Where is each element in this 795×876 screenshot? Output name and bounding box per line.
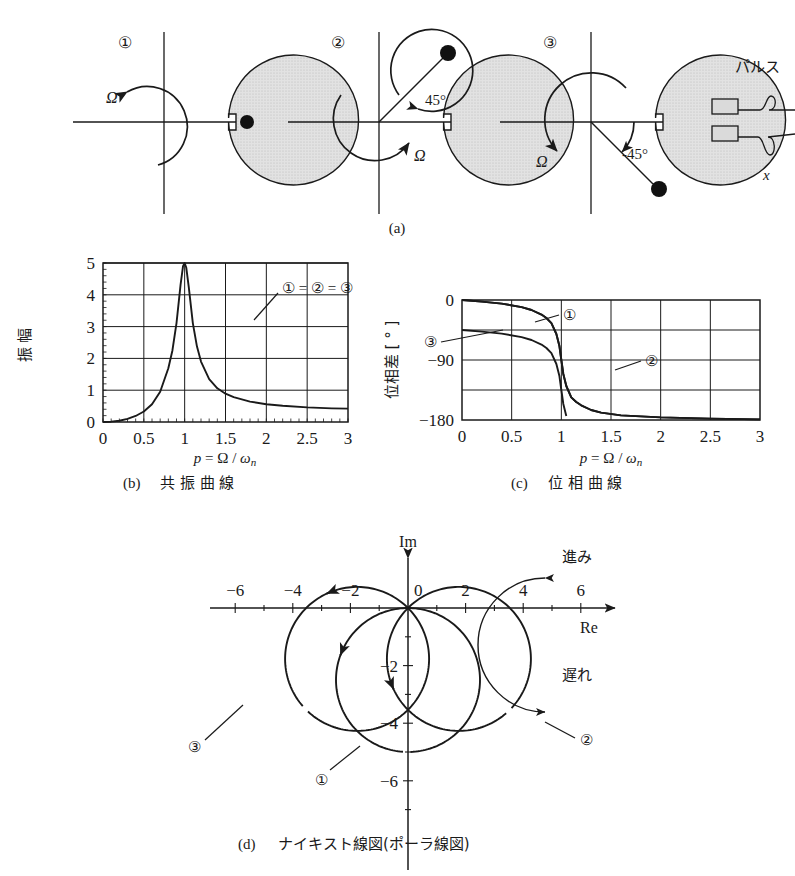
chart-c-label1-leader	[535, 315, 559, 322]
chart-c-x-tick-label: 3	[756, 427, 765, 446]
chart-b-x-tick-label: 2	[262, 429, 271, 448]
chart-d-series-label-3: ③	[188, 739, 201, 755]
chart-b-x-tick-label: 1.5	[215, 429, 236, 448]
chart-c-label2-leader	[615, 361, 641, 370]
chart-b-x-tick-label: 2.5	[297, 429, 318, 448]
chart-b-x-tick-label: 0.5	[133, 429, 154, 448]
chart-c-x-tick-label: 0	[458, 427, 467, 446]
chart-d-x-tick-label: −4	[284, 581, 303, 600]
disk2-unbalance-mass	[440, 45, 456, 61]
displacement-probe-box	[712, 126, 738, 141]
pulse-probe-box	[712, 99, 738, 114]
disk3-angle-label: -45°	[622, 146, 648, 162]
disk3-index-label: ③	[543, 34, 557, 51]
panel-b-chart: 012345 00.511.522.53 ① = ② = ③ p = Ω / ω…	[10, 250, 390, 500]
panel-a: Ω ① 45° Ω ② -45° Ω ③ パルス x (a)	[0, 0, 795, 240]
displacement-label: x	[762, 167, 770, 183]
disk1-unbalance-mass	[240, 115, 254, 129]
chart-b-caption: (b)	[123, 475, 141, 492]
chart-b-y-tick-label: 2	[87, 349, 96, 368]
chart-d-x-tick-label: −2	[341, 581, 359, 600]
chart-b-y-tick-label: 3	[87, 318, 96, 337]
chart-d-axis-tick-labels: −6−4−20246−2−4−6	[226, 581, 585, 791]
chart-d-label1-leader	[330, 746, 360, 770]
chart-d-x-tick-label: 2	[461, 581, 470, 600]
chart-d-x-tick-label: −6	[226, 581, 244, 600]
disk2-angle-label: 45°	[425, 92, 446, 108]
chart-b-y-tick-label: 1	[87, 381, 96, 400]
disk3-omega-label: Ω	[536, 153, 548, 170]
chart-d-lead-label: 進み	[562, 548, 592, 566]
chart-c-title: 位 相 曲 線	[548, 474, 622, 492]
chart-b-title: 共 振 曲 線	[160, 474, 234, 492]
chart-b-y-tick-label: 5	[87, 254, 96, 273]
chart-b-x-tick-labels: 00.511.522.53	[99, 429, 353, 448]
disk1-omega-label: Ω	[106, 89, 118, 106]
chart-c-x-tick-label: 1.5	[600, 427, 621, 446]
figure-root: Ω ① 45° Ω ② -45° Ω ③ パルス x (a)	[0, 0, 795, 876]
chart-c-label3-leader	[441, 330, 503, 342]
chart-c-x-tick-label: 2.5	[700, 427, 721, 446]
chart-d-x-tick-label: 4	[519, 581, 528, 600]
chart-b-y-tick-label: 0	[87, 413, 96, 432]
chart-b-annotation-label: ① = ② = ③	[282, 280, 353, 296]
disk2-index-label: ②	[331, 34, 345, 51]
chart-c-y-tick-labels: 0−90−180	[419, 291, 454, 430]
chart-d-lead-lag-arc	[478, 578, 545, 712]
chart-d-x-tick-label: 6	[577, 581, 586, 600]
chart-d-label3-leader	[205, 705, 243, 740]
chart-c-series-label-1: ①	[563, 307, 576, 323]
chart-c-x-tick-label: 0.5	[501, 427, 522, 446]
chart-d-re-axis-label: Re	[580, 619, 598, 636]
chart-c-x-tick-labels: 00.511.522.53	[458, 427, 765, 446]
disk2-omega-label: Ω	[414, 147, 426, 164]
chart-c-y-tick-label: −180	[419, 411, 454, 430]
chart-d-title: ナイキスト線図(ポーラ線図)	[278, 835, 470, 853]
chart-d-direction-arrow	[327, 592, 332, 594]
chart-b-y-tick-label: 4	[87, 286, 96, 305]
chart-c-x-tick-label: 1	[557, 427, 566, 446]
pulse-label: パルス	[735, 58, 780, 76]
chart-b-y-tick-labels: 012345	[87, 254, 96, 432]
chart-b-x-axis-label: p = Ω / ωn	[193, 450, 257, 468]
panel-a-caption: (a)	[389, 220, 406, 237]
chart-c-x-tick-label: 2	[656, 427, 665, 446]
chart-b-x-tick-label: 3	[344, 429, 353, 448]
disk-group-1: Ω ①	[73, 32, 359, 214]
chart-d-im-axis-label: Im	[399, 533, 417, 550]
chart-d-y-tick-label: −6	[380, 772, 398, 791]
chart-d-caption: (d)	[238, 836, 256, 853]
chart-c-caption: (c)	[511, 475, 528, 492]
chart-c-series-label-3: ③	[424, 334, 437, 350]
chart-c-y-tick-label: −90	[427, 351, 454, 370]
chart-c-y-axis-label: 位相差 [ ° ]	[383, 321, 401, 400]
chart-d-direction-arrow	[392, 685, 394, 690]
chart-c-x-axis-label: p = Ω / ωn	[579, 450, 643, 468]
disk2-body	[444, 55, 574, 185]
chart-b-y-axis-label: 振 幅	[16, 328, 34, 363]
chart-c-y-tick-label: 0	[446, 291, 455, 310]
chart-d-lag-label: 遅れ	[562, 666, 592, 684]
chart-d-series-label-1: ①	[315, 772, 328, 788]
chart-d-series-label-2: ②	[580, 732, 593, 748]
chart-d-label2-leader	[545, 722, 575, 738]
panel-c-chart: 0−90−180 00.511.522.53 ① ② ③ p = Ω / ωn …	[383, 250, 783, 500]
disk3-unbalance-mass	[651, 181, 667, 197]
chart-b-x-tick-label: 0	[99, 429, 108, 448]
chart-c-series-curve	[462, 330, 566, 416]
chart-c-series-label-2: ②	[645, 353, 658, 369]
chart-b-x-tick-label: 1	[180, 429, 189, 448]
chart-d-direction-arrow	[340, 651, 342, 656]
chart-c-gridlines	[462, 300, 760, 420]
disk1-index-label: ①	[118, 34, 132, 51]
disk2-mass-radius-line	[379, 58, 443, 122]
panel-d-chart: Im Re −6−4−20246−2−4−6 進み 遅れ ③ ① ② (d) ナ…	[0, 500, 795, 876]
disk1-rotation-arc	[127, 86, 187, 165]
